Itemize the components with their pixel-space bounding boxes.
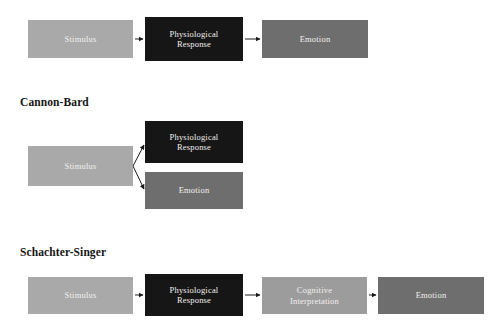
node-s2-stimulus: Stimulus bbox=[28, 146, 133, 186]
emotion-theories-diagram: StimulusPhysiological ResponseEmotionSti… bbox=[0, 0, 495, 333]
node-s1-physiological: Physiological Response bbox=[145, 17, 243, 61]
node-label-s2-physiological: Physiological Response bbox=[145, 132, 243, 152]
node-label-s2-stimulus: Stimulus bbox=[28, 161, 133, 171]
arrows-group bbox=[133, 39, 376, 295]
node-s1-emotion: Emotion bbox=[262, 20, 368, 58]
node-s3-physiological: Physiological Response bbox=[145, 274, 243, 316]
node-label-s1-stimulus: Stimulus bbox=[28, 34, 133, 44]
arrow-s2-stimulus-to-s2-emotion bbox=[133, 166, 144, 189]
node-s3-cognitive: Cognitive Interpretation bbox=[262, 277, 367, 314]
node-label-s3-physiological: Physiological Response bbox=[145, 285, 243, 305]
section-title-cannon-bard: Cannon-Bard bbox=[20, 96, 89, 108]
node-label-s1-physiological: Physiological Response bbox=[145, 29, 243, 49]
node-s1-stimulus: Stimulus bbox=[28, 20, 133, 58]
node-s3-stimulus: Stimulus bbox=[28, 277, 133, 314]
node-s3-emotion: Emotion bbox=[378, 277, 484, 314]
node-s2-emotion: Emotion bbox=[145, 172, 243, 209]
arrow-s2-stimulus-to-s2-physiological bbox=[133, 145, 144, 166]
node-label-s1-emotion: Emotion bbox=[262, 34, 368, 44]
node-label-s3-cognitive: Cognitive Interpretation bbox=[262, 285, 367, 305]
node-label-s2-emotion: Emotion bbox=[145, 185, 243, 195]
node-label-s3-stimulus: Stimulus bbox=[28, 290, 133, 300]
section-title-schachter-singer: Schachter-Singer bbox=[20, 246, 106, 258]
node-label-s3-emotion: Emotion bbox=[378, 290, 484, 300]
node-s2-physiological: Physiological Response bbox=[145, 121, 243, 163]
